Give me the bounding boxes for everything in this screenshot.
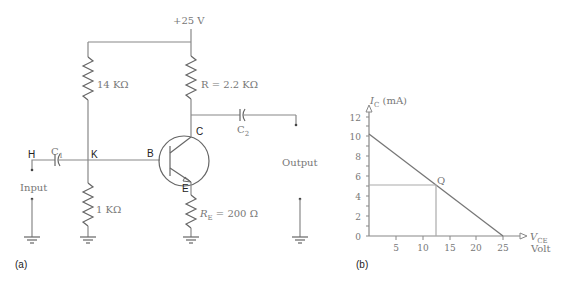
npn-transistor-icon	[159, 136, 209, 186]
ground-icon	[24, 237, 40, 243]
resistor-1k-icon	[83, 183, 93, 226]
resistor-re-icon	[186, 195, 196, 228]
output-label: Output	[282, 157, 318, 168]
y-tick-label: 2	[355, 212, 361, 222]
re-label: RE = 200 Ω	[199, 208, 258, 222]
node-e-label: E	[182, 183, 189, 194]
y-tick-label: 0	[355, 232, 361, 242]
y-tick-label: 4	[355, 192, 361, 202]
supply-label: +25 V	[173, 15, 205, 26]
figure-canvas: +25 V 14 KΩ 1 KΩ H C1 K Input	[0, 0, 566, 283]
x-tick-label: 10	[417, 243, 429, 253]
node-b-label: B	[147, 148, 154, 159]
x-tick-label: 15	[444, 243, 456, 253]
y-axis-label: IC (mA)	[369, 95, 407, 109]
node-c-label: C	[196, 126, 203, 137]
x-tick-label: 25	[497, 243, 509, 253]
x-axis-arrow-icon	[520, 233, 527, 239]
rc-label: R = 2.2 KΩ	[201, 79, 258, 90]
x-tick-label: 20	[470, 243, 482, 253]
ground-icon	[292, 237, 308, 243]
ground-icon	[80, 237, 96, 243]
r2-label: 1 KΩ	[96, 204, 121, 215]
resistor-rc-icon	[186, 56, 196, 99]
input-terminal	[31, 169, 34, 172]
ground-icon	[183, 237, 199, 243]
x-tick-label: 5	[393, 243, 399, 253]
input-label: Input	[20, 182, 47, 193]
c2-label: C2	[237, 124, 249, 138]
q-point-label: Q	[437, 175, 445, 186]
load-line-chart: 0 2 4 6 8 10 12 5 10 15 20 25 Q IC (mA) …	[350, 95, 551, 270]
r1-label: 14 KΩ	[97, 79, 129, 90]
y-tick-label: 10	[350, 132, 362, 142]
y-axis-arrow-icon	[366, 105, 372, 112]
c1-label: C1	[51, 146, 63, 160]
panel-label-b: (b)	[356, 259, 368, 270]
y-tick-label: 8	[355, 152, 361, 162]
x-axis-unit: Volt	[530, 243, 551, 254]
y-tick-label: 12	[350, 113, 361, 123]
panel-label-a: (a)	[15, 259, 27, 270]
resistor-14k-icon	[83, 57, 93, 100]
output-terminal	[295, 124, 298, 127]
y-tick-label: 6	[355, 172, 361, 182]
node-k-label: K	[91, 149, 98, 160]
node-h-label: H	[28, 149, 35, 160]
circuit-diagram: +25 V 14 KΩ 1 KΩ H C1 K Input	[15, 15, 318, 270]
